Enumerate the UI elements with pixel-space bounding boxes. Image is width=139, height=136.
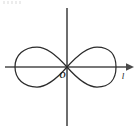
plot-canvas: O l <box>0 0 139 136</box>
x-axis-arrow-icon <box>126 63 134 71</box>
x-axis-label: l <box>122 71 125 81</box>
lemniscate-figure: O l <box>0 0 139 136</box>
origin-label: O <box>59 70 65 80</box>
